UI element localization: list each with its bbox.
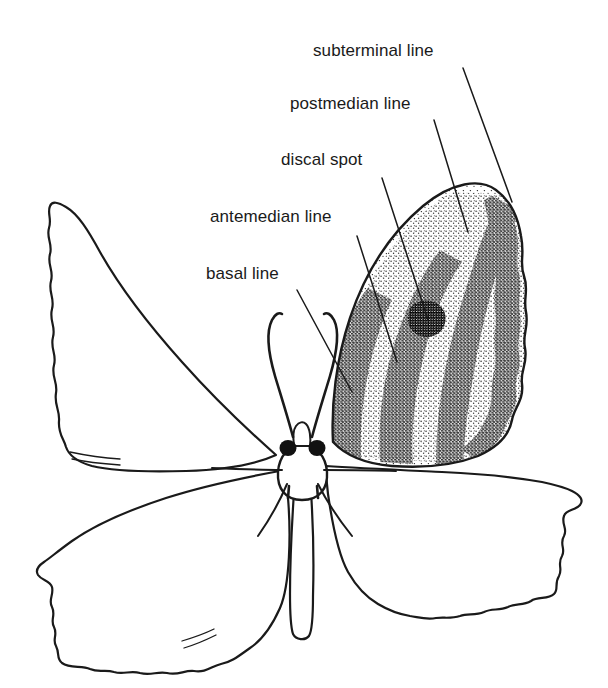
left-hindwing xyxy=(37,470,290,674)
right-eye xyxy=(309,440,326,456)
label-postmedian-line: postmedian line xyxy=(290,95,411,112)
label-antemedian-line: antemedian line xyxy=(210,208,332,225)
left-forewing xyxy=(48,203,276,472)
right-forewing-pattern xyxy=(331,192,538,470)
discal-spot xyxy=(408,301,446,338)
label-basal-line: basal line xyxy=(206,265,279,282)
figure-container: subterminal line postmedian line discal … xyxy=(0,0,608,688)
left-antenna xyxy=(268,313,293,437)
label-discal-spot: discal spot xyxy=(281,151,362,168)
right-hindwing xyxy=(326,466,582,619)
abdomen xyxy=(290,492,313,639)
head xyxy=(293,422,310,446)
left-eye xyxy=(280,440,297,456)
leader-subterminal xyxy=(463,68,512,202)
label-subterminal-line: subterminal line xyxy=(313,42,434,59)
